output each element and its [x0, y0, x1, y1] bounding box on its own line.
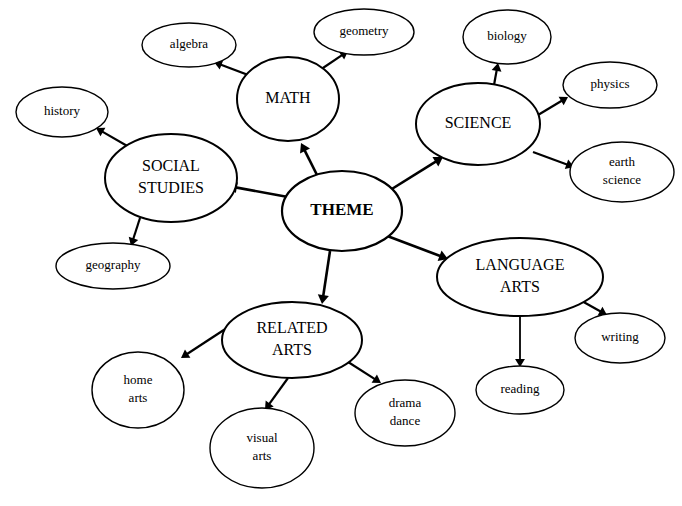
- node-label-line: physics: [591, 76, 630, 91]
- node-reading[interactable]: reading: [476, 366, 564, 414]
- node-related-arts[interactable]: RELATEDARTS: [222, 302, 362, 378]
- node-drama-dance[interactable]: dramadance: [355, 380, 455, 446]
- edge-science-to-physics: [538, 97, 568, 115]
- node-label: geography: [86, 257, 141, 272]
- node-label-line: arts: [129, 390, 148, 405]
- node-home-arts[interactable]: homearts: [92, 352, 184, 428]
- edge-line: [102, 131, 129, 147]
- node-label-line: drama: [389, 395, 422, 410]
- node-geography[interactable]: geography: [56, 243, 170, 289]
- edge-theme-to-language-arts: [382, 234, 448, 261]
- node-earth-science[interactable]: earthscience: [570, 142, 674, 202]
- edge-theme-to-related-arts: [318, 251, 330, 304]
- node-label-line: arts: [253, 448, 272, 463]
- edge-line: [387, 161, 437, 192]
- node-label-line: ARTS: [500, 278, 540, 295]
- node-science[interactable]: SCIENCE: [416, 83, 540, 165]
- edge-social-studies-to-geography: [129, 218, 140, 246]
- edge-line: [538, 100, 562, 115]
- node-label-line: MATH: [265, 89, 311, 106]
- node-label: geometry: [339, 23, 389, 38]
- node-label-line: reading: [501, 381, 540, 396]
- node-label-line: science: [603, 172, 641, 187]
- edge-line: [133, 218, 140, 240]
- node-biology[interactable]: biology: [463, 10, 551, 64]
- node-writing[interactable]: writing: [575, 313, 665, 363]
- node-label: algebra: [170, 36, 208, 51]
- node-label-line: ARTS: [272, 341, 312, 358]
- node-algebra[interactable]: algebra: [142, 23, 236, 67]
- node-label-line: THEME: [310, 200, 373, 219]
- node-label-line: STUDIES: [138, 179, 204, 196]
- node-label-line: history: [44, 103, 81, 118]
- node-label-line: SCIENCE: [445, 114, 512, 131]
- node-label: physics: [591, 76, 630, 91]
- node-label-line: earth: [609, 154, 635, 169]
- edge-line: [323, 251, 330, 296]
- node-label-line: RELATED: [256, 319, 327, 336]
- arrow-head-icon: [318, 294, 329, 304]
- node-label-line: home: [124, 372, 153, 387]
- edge-theme-to-science: [387, 157, 443, 192]
- node-label-line: SOCIAL: [142, 157, 200, 174]
- edge-language-arts-to-reading: [515, 316, 525, 367]
- edge-line: [533, 152, 568, 165]
- edge-line: [269, 378, 288, 404]
- nodes-layer: THEMEMATHSOCIALSTUDIESSCIENCELANGUAGEART…: [16, 9, 674, 488]
- edge-line: [382, 234, 441, 256]
- node-label: history: [44, 103, 81, 118]
- node-label-line: writing: [601, 329, 639, 344]
- edge-line: [494, 70, 497, 85]
- node-physics[interactable]: physics: [563, 62, 657, 108]
- node-math[interactable]: MATH: [237, 57, 339, 141]
- node-label-line: biology: [487, 28, 527, 43]
- node-language-arts[interactable]: LANGUAGEARTS: [437, 238, 603, 316]
- node-label: writing: [601, 329, 639, 344]
- node-social-studies[interactable]: SOCIALSTUDIES: [105, 134, 237, 222]
- edge-related-arts-to-visual-arts: [265, 378, 288, 410]
- node-label-line: geometry: [339, 23, 389, 38]
- node-label: SCIENCE: [445, 114, 512, 131]
- node-label-line: geography: [86, 257, 141, 272]
- node-history[interactable]: history: [16, 87, 108, 137]
- node-visual-arts[interactable]: visualarts: [210, 408, 314, 488]
- edge-related-arts-to-drama-dance: [345, 360, 381, 383]
- node-label-line: visual: [246, 430, 277, 445]
- node-label: biology: [487, 28, 527, 43]
- node-label: MATH: [265, 89, 311, 106]
- mind-map-diagram: THEMEMATHSOCIALSTUDIESSCIENCELANGUAGEART…: [0, 0, 682, 506]
- node-label: reading: [501, 381, 540, 396]
- node-label-line: algebra: [170, 36, 208, 51]
- edge-social-studies-to-history: [96, 128, 129, 147]
- node-theme[interactable]: THEME: [282, 171, 402, 251]
- node-label-line: LANGUAGE: [476, 256, 565, 273]
- edge-line: [236, 187, 288, 197]
- node-label-line: dance: [390, 413, 421, 428]
- edge-science-to-biology: [492, 63, 502, 85]
- node-label: THEME: [310, 200, 373, 219]
- mind-map-canvas: THEMEMATHSOCIALSTUDIESSCIENCELANGUAGEART…: [0, 0, 682, 506]
- edge-science-to-earth-science: [533, 152, 574, 169]
- node-geometry[interactable]: geometry: [314, 9, 414, 55]
